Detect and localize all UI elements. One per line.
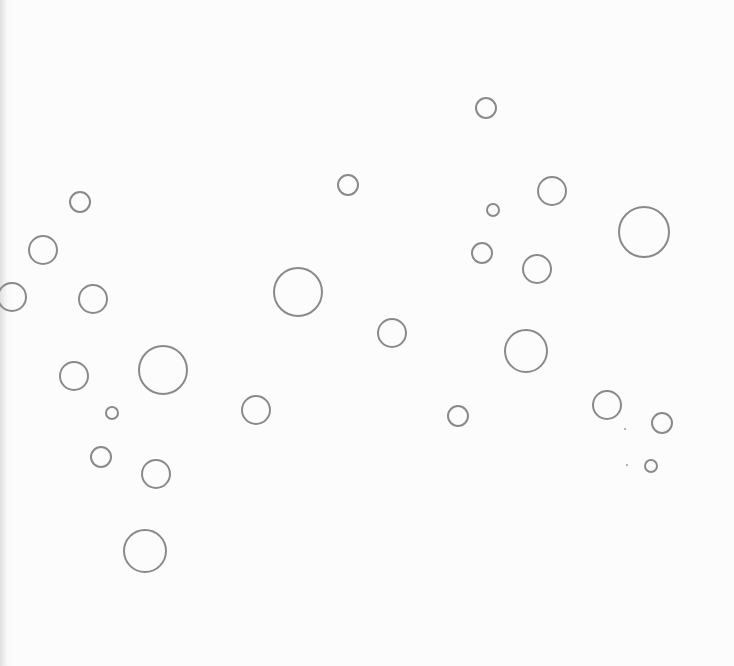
scan-edge-shadow	[0, 0, 14, 666]
bubble-circle	[447, 405, 469, 427]
bubble-circle	[651, 412, 673, 434]
bubble-circle	[273, 267, 323, 317]
bubble-circle	[475, 97, 497, 119]
bubble-circle	[618, 206, 670, 258]
bubble-circle	[592, 390, 622, 420]
bubble-circle	[90, 446, 112, 468]
bubble-circle	[59, 361, 89, 391]
bubble-circle	[337, 174, 359, 196]
scan-speck	[626, 464, 628, 466]
bubble-circle	[78, 284, 108, 314]
bubble-circle	[486, 203, 500, 217]
bubble-circle	[105, 406, 119, 420]
bubble-circle	[377, 318, 407, 348]
bubble-circle	[471, 242, 493, 264]
bubble-circle	[537, 176, 567, 206]
bubble-illustration-page	[0, 0, 734, 666]
bubble-circle	[0, 282, 27, 312]
bubble-circle	[138, 345, 188, 395]
bubble-circle	[141, 459, 171, 489]
bubble-circle	[28, 235, 58, 265]
scan-speck	[624, 428, 626, 430]
bubble-circle	[504, 329, 548, 373]
bubble-circle	[241, 395, 271, 425]
bubble-circle	[123, 529, 167, 573]
bubble-circle	[69, 191, 91, 213]
bubble-circle	[522, 254, 552, 284]
bubble-circle	[644, 459, 658, 473]
